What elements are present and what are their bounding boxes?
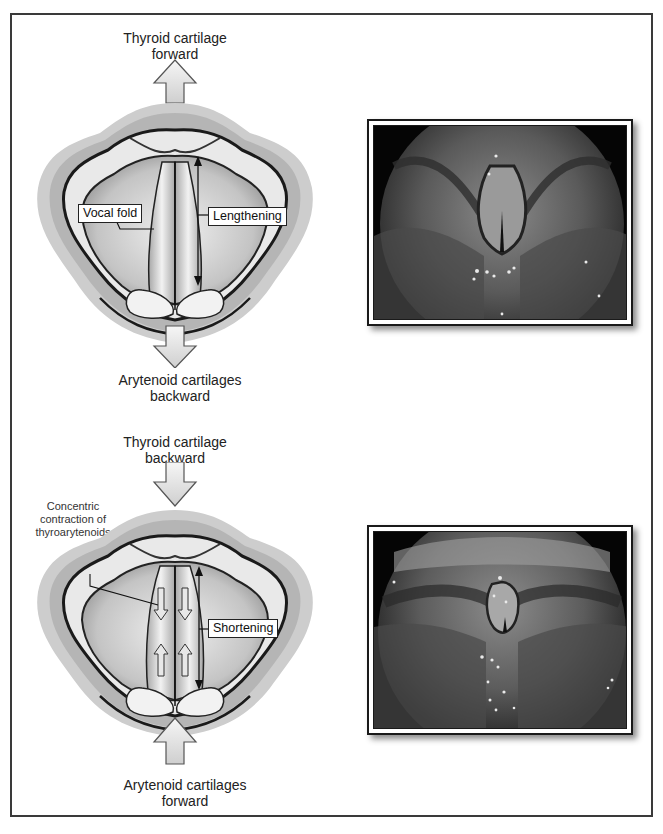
caption-line: Arytenoid cartilages	[95, 777, 275, 793]
vocal-fold-label: Vocal fold	[78, 204, 142, 223]
endoscopic-photo-shortening	[367, 525, 633, 735]
larynx-photo-illustration	[374, 532, 627, 729]
caption-line: Thyroid cartilage	[100, 30, 250, 46]
caption-line: forward	[95, 793, 275, 809]
arrow-down-icon	[154, 462, 196, 506]
bottom-caption-shortening: Arytenoid cartilages forward	[95, 777, 275, 809]
caption-line: backward	[90, 388, 270, 404]
arrow-up-icon	[154, 60, 196, 103]
caption-line: Thyroid cartilage	[100, 434, 250, 450]
endoscopic-photo-lengthening	[367, 119, 633, 326]
lengthening-label: Lengthening	[208, 207, 287, 226]
larynx-photo-illustration	[374, 126, 627, 320]
bottom-caption-lengthening: Arytenoid cartilages backward	[90, 372, 270, 404]
photo-image	[373, 531, 627, 729]
larynx-diagram-shortening	[30, 462, 330, 772]
photo-image	[373, 125, 627, 320]
shortening-label: Shortening	[208, 619, 278, 638]
caption-line: Arytenoid cartilages	[90, 372, 270, 388]
